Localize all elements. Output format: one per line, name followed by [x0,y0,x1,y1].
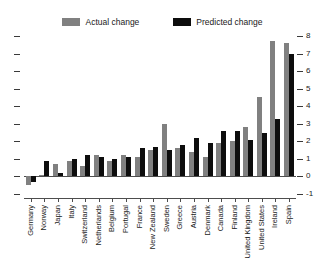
bar [126,157,131,176]
x-tick-label: Austria [190,205,198,228]
bar-groups [24,36,296,194]
y-tick-mark [297,159,303,160]
x-tick-slot [282,198,296,203]
x-label-slot: Ireland [269,205,283,257]
x-tick-slot [160,198,174,203]
bar-group [65,36,79,194]
x-tick-slot [65,198,79,203]
bar-group [269,36,283,194]
plot-area [24,36,296,194]
x-tick-slot [269,198,283,203]
legend-predicted-change: Predicted change [173,18,262,27]
y-tick-label: -1 [306,190,313,198]
x-label-slot: Netherlands [92,205,106,257]
x-tick-slot [242,198,256,203]
x-tick-mark [235,198,236,202]
x-tick-mark [221,198,222,202]
x-tick-mark [99,198,100,202]
x-label-slot: Denmark [201,205,215,257]
x-tick-label: Greece [177,205,185,230]
x-tick-label: Finland [231,205,239,230]
y-tick-mark [297,106,303,107]
x-tick-mark [262,198,263,202]
x-tick-mark [180,198,181,202]
x-tick-label: Portugal [122,205,130,233]
x-axis-labels: GermanyNorwayJapanItalySwitzerlandNether… [24,205,296,257]
legend-swatch [173,18,191,26]
x-tick-slot [174,198,188,203]
bar [235,131,240,177]
y-axis-ticks-right: 876543210-1 [297,36,323,194]
legend-label: Predicted change [196,18,262,27]
x-tick-label: Japan [54,205,62,225]
x-tick-label: Germany [27,205,35,236]
y-tick-label: 0 [306,172,310,180]
y-tick-label: 2 [306,137,310,145]
bar-group [174,36,188,194]
bar-group [201,36,215,194]
x-tick-mark [112,198,113,202]
y-tick-label: 4 [306,102,310,110]
x-label-slot: Germany [24,205,38,257]
bar [31,176,36,181]
y-tick-mark [297,141,303,142]
x-tick-mark [31,198,32,202]
bar-group [119,36,133,194]
x-label-slot: Japan [51,205,65,257]
bar-group [146,36,160,194]
bar-group [255,36,269,194]
x-tick-label: Spain [285,205,293,224]
x-tick-slot [255,198,269,203]
y-tick-mark [14,194,20,195]
x-tick-slot [187,198,201,203]
x-axis-ticks [24,198,296,203]
x-tick-label: United States [258,205,266,250]
y-tick-mark [14,71,20,72]
x-label-slot: Sweden [160,205,174,257]
y-tick-label: 3 [306,120,310,128]
x-tick-slot [38,198,52,203]
bar-group [92,36,106,194]
bar [153,147,158,177]
x-tick-label: Belgium [109,205,117,232]
x-tick-slot [214,198,228,203]
x-tick-mark [289,198,290,202]
bar-group [24,36,38,194]
bar [208,143,213,176]
bar [275,119,280,177]
bar [72,159,77,177]
bar [180,145,185,177]
y-tick-mark [14,89,20,90]
x-tick-label: Italy [68,205,76,219]
bar [167,150,172,176]
bar [112,159,117,177]
bar-group [106,36,120,194]
x-label-slot: Norway [38,205,52,257]
x-tick-label: Sweden [163,205,171,232]
x-tick-mark [44,198,45,202]
bar-group [228,36,242,194]
x-tick-mark [194,198,195,202]
y-tick-mark [14,36,20,37]
x-label-slot: Italy [65,205,79,257]
bar-group [133,36,147,194]
x-tick-mark [85,198,86,202]
bar [140,148,145,176]
x-label-slot: Finland [228,205,242,257]
bar-group [51,36,65,194]
bar [248,140,253,177]
bar [85,155,90,176]
x-label-slot: New Zealand [146,205,160,257]
bar-group [78,36,92,194]
x-label-slot: Austria [187,205,201,257]
y-tick-mark [14,106,20,107]
x-tick-mark [248,198,249,202]
x-tick-mark [208,198,209,202]
y-tick-mark [297,89,303,90]
y-tick-label: 6 [306,67,310,75]
bar [221,131,226,177]
x-tick-label: Switzerland [81,205,89,244]
x-label-slot: Belgium [106,205,120,257]
x-tick-mark [275,198,276,202]
bar-group [214,36,228,194]
